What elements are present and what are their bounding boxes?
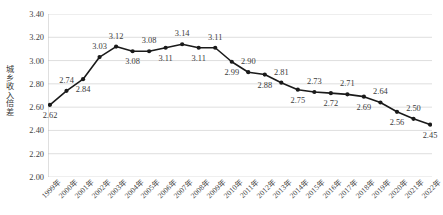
data-value-label: 3.11 (158, 55, 172, 63)
data-value-label: 2.99 (224, 69, 239, 77)
data-point (131, 49, 135, 53)
data-point (64, 89, 68, 93)
data-value-label: 3.08 (142, 37, 157, 45)
data-point (428, 123, 432, 127)
data-value-label: 2.88 (257, 81, 272, 89)
data-point (246, 70, 250, 74)
data-value-label: 2.45 (423, 131, 438, 139)
data-value-label: 2.62 (43, 112, 58, 120)
x-axis-tick-labels: 1999年2000年2001年2002年2003年2004年2005年2006年… (48, 178, 432, 215)
data-point (263, 72, 267, 76)
data-value-label: 2.84 (76, 86, 91, 94)
data-point (97, 55, 101, 59)
data-point (147, 49, 151, 53)
y-axis-tick: 2.80 (14, 79, 44, 88)
data-point (378, 100, 382, 104)
data-value-label: 2.75 (290, 96, 305, 104)
data-point (213, 46, 217, 50)
y-axis-tick: 2.20 (14, 149, 44, 158)
data-value-label: 2.72 (324, 100, 339, 108)
data-point (312, 90, 316, 94)
y-axis-tick: 2.60 (14, 103, 44, 112)
data-value-label: 2.56 (390, 119, 405, 127)
data-value-label: 2.90 (241, 58, 256, 66)
data-point (279, 81, 283, 85)
data-value-label: 2.81 (274, 68, 289, 76)
data-point (230, 60, 234, 64)
data-point (197, 46, 201, 50)
data-point (114, 45, 118, 49)
data-point (395, 110, 399, 114)
data-value-label: 3.14 (175, 30, 190, 38)
data-value-label: 2.74 (59, 77, 74, 85)
y-axis-tick: 3.40 (14, 10, 44, 19)
chart-figure: 城乡收入倍差 3.403.203.002.802.602.402.202.00 … (0, 0, 443, 215)
data-value-label: 2.69 (357, 103, 372, 111)
data-value-label: 3.12 (109, 32, 124, 40)
y-axis-tick: 2.40 (14, 126, 44, 135)
data-point (329, 91, 333, 95)
data-point (345, 92, 349, 96)
data-value-label: 2.73 (307, 78, 322, 86)
data-point (362, 95, 366, 99)
data-value-label: 2.71 (340, 80, 355, 88)
data-point (180, 42, 184, 46)
data-value-label: 3.11 (208, 34, 222, 42)
y-axis-tick: 3.20 (14, 33, 44, 42)
data-value-label: 2.64 (373, 88, 388, 96)
y-axis-tick-labels: 3.403.203.002.802.602.402.202.00 (14, 0, 44, 215)
y-axis-tick: 3.00 (14, 56, 44, 65)
data-point (48, 103, 52, 107)
data-point (296, 88, 300, 92)
data-point (81, 77, 85, 81)
data-value-label: 3.11 (192, 55, 206, 63)
data-point (164, 46, 168, 50)
data-value-label: 2.50 (406, 105, 421, 113)
y-axis-tick: 2.00 (14, 173, 44, 182)
series-markers (48, 42, 432, 127)
data-point (411, 117, 415, 121)
data-value-label: 3.03 (92, 43, 107, 51)
data-value-label: 3.08 (125, 58, 140, 66)
